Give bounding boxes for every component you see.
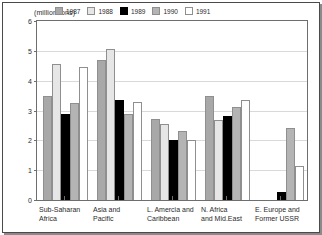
bar-group (43, 64, 88, 200)
y-tick-label: 2 (28, 137, 32, 144)
legend-swatch-icon (185, 7, 193, 15)
y-tick-label: 5 (28, 47, 32, 54)
bar-1991[interactable] (295, 166, 304, 200)
legend-swatch-icon (87, 7, 95, 15)
bar-1991[interactable] (241, 100, 250, 200)
x-axis-tick (280, 196, 281, 200)
bar-1988[interactable] (160, 124, 169, 200)
bar-1989[interactable] (223, 116, 232, 200)
y-tick-label: 3 (28, 107, 32, 114)
y-tick-mark (34, 111, 37, 112)
bar-1988[interactable] (106, 49, 115, 200)
y-tick-mark (34, 200, 37, 201)
legend-label: 1989 (131, 8, 145, 15)
legend-label: 1987 (66, 8, 80, 15)
legend-item-1988[interactable]: 1988 (87, 7, 112, 15)
gridline (37, 51, 307, 52)
y-tick-label: 1 (28, 167, 32, 174)
x-category-label: E. Europe and Former USSR (255, 205, 317, 223)
y-tick-mark (34, 140, 37, 141)
bar-1989[interactable] (61, 114, 70, 200)
bar-1987[interactable] (97, 60, 106, 200)
bar-1990[interactable] (178, 131, 187, 200)
bar-1990[interactable] (286, 128, 295, 200)
x-category-label: L. Amercia and Caribbean (147, 205, 209, 223)
frame-shadow-bottom (4, 233, 322, 235)
y-tick-label: 4 (28, 77, 32, 84)
bar-group (205, 96, 250, 200)
bar-1990[interactable] (124, 114, 133, 200)
bar-1990[interactable] (232, 107, 241, 200)
x-axis-tick (226, 196, 227, 200)
legend-label: 1990 (163, 8, 177, 15)
legend-label: 1991 (196, 8, 210, 15)
bar-1989[interactable] (169, 140, 178, 200)
y-tick-mark (34, 51, 37, 52)
legend-label: 1988 (98, 8, 112, 15)
bar-group (151, 119, 196, 200)
bar-1990[interactable] (70, 103, 79, 200)
bar-group (259, 128, 304, 200)
x-category-label: Sub-Saharan Africa (39, 205, 101, 223)
x-category-label: N. Africa and Mid.East (201, 205, 263, 223)
legend-item-1991[interactable]: 1991 (185, 7, 210, 15)
plot-inner: 6543210 (37, 21, 307, 200)
legend-swatch-icon (120, 7, 128, 15)
legend-swatch-icon (152, 7, 160, 15)
x-axis-tick (172, 196, 173, 200)
x-axis-tick (64, 196, 65, 200)
legend-item-1989[interactable]: 1989 (120, 7, 145, 15)
bar-1988[interactable] (52, 64, 61, 200)
plot-area: 6543210 (36, 20, 308, 201)
bar-1991[interactable] (133, 102, 142, 200)
bar-1987[interactable] (205, 96, 214, 200)
chart-legend: 19871988198919901991 (55, 7, 210, 15)
bar-1989[interactable] (277, 192, 286, 200)
x-category-label: Asia and Pacific (93, 205, 155, 223)
bar-1991[interactable] (187, 140, 196, 200)
legend-swatch-icon (55, 7, 63, 15)
bar-1989[interactable] (115, 100, 124, 200)
y-tick-mark (34, 81, 37, 82)
legend-item-1987[interactable]: 1987 (55, 7, 80, 15)
bar-1991[interactable] (79, 67, 88, 200)
x-axis-tick (118, 196, 119, 200)
bar-group (97, 49, 142, 200)
bar-1988[interactable] (214, 120, 223, 200)
y-tick-mark (34, 21, 37, 22)
bar-1987[interactable] (151, 119, 160, 200)
y-tick-label: 6 (28, 18, 32, 25)
legend-item-1990[interactable]: 1990 (152, 7, 177, 15)
y-tick-mark (34, 170, 37, 171)
y-tick-label: 0 (28, 197, 32, 204)
chart-page: (million tons) 19871988198919901991 6543… (0, 0, 322, 235)
chart-frame: (million tons) 19871988198919901991 6543… (2, 2, 320, 233)
bar-1987[interactable] (43, 96, 52, 200)
